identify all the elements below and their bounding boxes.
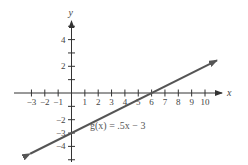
x-axis-label: x (226, 87, 232, 98)
x-tick-label: 3 (109, 97, 114, 107)
y-tick-label: −4 (56, 141, 66, 151)
x-tick-label: −2 (40, 97, 50, 107)
x-tick-label: 8 (176, 97, 181, 107)
y-tick-label: 4 (61, 35, 66, 45)
x-tick-label: −1 (53, 97, 63, 107)
y-axis-label: y (68, 7, 74, 18)
function-graph: x y −3−2−112345678910 42−2−3−4 g(x) = .5… (0, 0, 248, 165)
x-tick-label: 6 (149, 97, 154, 107)
x-tick-label: 9 (189, 97, 194, 107)
x-tick-label: 10 (201, 97, 211, 107)
x-tick-label: −3 (27, 97, 37, 107)
y-tick-label: 2 (61, 61, 66, 71)
x-tick-label: 2 (96, 97, 101, 107)
x-ticks: −3−2−112345678910 (27, 90, 210, 108)
function-line (30, 60, 217, 153)
x-tick-label: 1 (83, 97, 88, 107)
y-tick-label: −2 (56, 115, 66, 125)
x-tick-label: 7 (163, 97, 168, 107)
equation-label: g(x) = .5x − 3 (90, 120, 145, 132)
